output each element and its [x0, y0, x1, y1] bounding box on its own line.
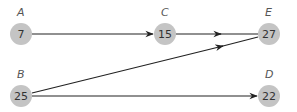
- node-a-value: 7: [18, 28, 25, 41]
- edge-b-to-e-tail: [221, 37, 258, 47]
- edge-b-to-e: [32, 46, 223, 93]
- node-b: B 25: [10, 68, 32, 107]
- node-d-value: 22: [262, 90, 276, 103]
- node-b-label: B: [17, 68, 25, 81]
- node-d-label: D: [265, 68, 273, 81]
- node-e-value: 27: [262, 28, 276, 41]
- node-b-value: 25: [14, 90, 28, 103]
- node-c-value: 15: [158, 28, 172, 41]
- node-a-label: A: [16, 6, 25, 19]
- diagram-canvas: A 7 B 25 C 15 E 27 D 22: [0, 0, 297, 112]
- edges: [32, 34, 258, 96]
- node-e-label: E: [265, 6, 272, 19]
- node-e: E 27: [258, 6, 280, 45]
- node-c-label: C: [161, 6, 169, 19]
- node-d: D 22: [258, 68, 280, 107]
- node-a: A 7: [10, 6, 32, 45]
- node-c: C 15: [154, 6, 176, 45]
